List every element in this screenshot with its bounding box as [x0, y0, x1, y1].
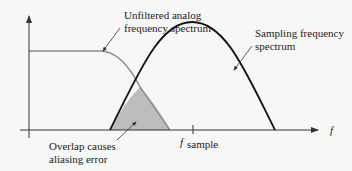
f-axis-label: f: [330, 124, 335, 136]
f-sample-label: f: [180, 136, 185, 148]
overlap-label-line2: aliasing error: [49, 153, 108, 165]
unfiltered-label-line1: Unfiltered analog: [124, 9, 202, 21]
overlap-region: [110, 87, 170, 130]
aliasing-diagram: Unfiltered analog frequency spectrum Sam…: [0, 0, 352, 171]
sampling-label-line1: Sampling frequency: [255, 27, 344, 39]
f-sample-subscript: sample: [187, 138, 218, 150]
unfiltered-label-line2: frequency spectrum: [124, 22, 211, 34]
unfiltered-leader-arrow: [103, 28, 120, 51]
overlap-label-line1: Overlap causes: [49, 140, 116, 152]
sampling-label-line2: spectrum: [255, 40, 296, 52]
